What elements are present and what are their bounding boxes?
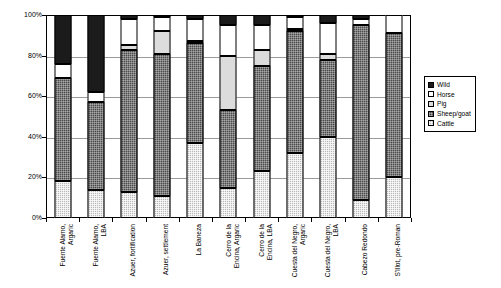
bar-segment-horse[interactable] xyxy=(286,17,303,29)
bar-segment-wild[interactable] xyxy=(253,15,270,25)
x-axis-category-label-line: Azuer, fortification xyxy=(129,224,137,276)
x-axis-category-label-line: Cabezo Redondo xyxy=(361,224,369,275)
bar-segment-pig[interactable] xyxy=(220,56,237,111)
x-axis-category-label-line: La Baneza xyxy=(195,224,203,256)
stacked-bar[interactable] xyxy=(353,15,370,218)
y-axis-tick-label: 20% xyxy=(6,173,42,180)
legend-label: Sheep/goat xyxy=(437,110,471,117)
bar-segment-pig[interactable] xyxy=(120,45,137,49)
bar-segment-horse[interactable] xyxy=(320,23,337,53)
x-axis-label-slot: S'Illot, pre-Roman xyxy=(378,224,411,288)
legend-item-pig[interactable]: Pig xyxy=(428,99,471,109)
bar-segment-wild[interactable] xyxy=(320,15,337,23)
bar-segment-sheep-goat[interactable] xyxy=(87,102,104,189)
x-axis-tick-mark xyxy=(345,218,346,222)
bar-segment-wild[interactable] xyxy=(353,15,370,19)
bar-segment-cattle[interactable] xyxy=(187,143,204,218)
bar-segment-sheep-goat[interactable] xyxy=(386,33,403,177)
legend-label: Cattle xyxy=(437,120,454,127)
bar-segment-cattle[interactable] xyxy=(87,190,104,218)
stacked-bar[interactable] xyxy=(54,15,71,218)
stacked-bar[interactable] xyxy=(120,15,137,218)
bar-segment-cattle[interactable] xyxy=(120,192,137,218)
bar-segment-horse[interactable] xyxy=(353,19,370,25)
x-axis-tick-mark xyxy=(179,218,180,222)
bar-segment-horse[interactable] xyxy=(154,17,171,31)
bar-segment-sheep-goat[interactable] xyxy=(187,43,204,142)
bar-segment-pig[interactable] xyxy=(187,41,204,43)
legend-item-horse[interactable]: Horse xyxy=(428,90,471,100)
stacked-bar[interactable] xyxy=(187,15,204,218)
bar-segment-sheep-goat[interactable] xyxy=(154,54,171,196)
stacked-bar[interactable] xyxy=(286,15,303,218)
bar-segment-sheep-goat[interactable] xyxy=(353,25,370,200)
bar-segment-wild[interactable] xyxy=(54,15,71,64)
x-axis-tick-mark xyxy=(146,218,147,222)
bar-segment-cattle[interactable] xyxy=(353,200,370,218)
x-axis-category-label: Cabezo Redondo xyxy=(361,224,369,275)
bar-slot xyxy=(378,15,411,218)
bar-segment-sheep-goat[interactable] xyxy=(120,50,137,192)
bar-segment-cattle[interactable] xyxy=(154,196,171,218)
bar-segment-wild[interactable] xyxy=(154,15,171,17)
x-axis-tick-mark xyxy=(79,218,80,222)
bar-segment-wild[interactable] xyxy=(286,15,303,17)
stacked-bar[interactable] xyxy=(320,15,337,218)
bar-segment-cattle[interactable] xyxy=(286,153,303,218)
bar-segment-cattle[interactable] xyxy=(54,181,71,218)
bar-segment-wild[interactable] xyxy=(87,15,104,92)
x-axis-tick-mark xyxy=(278,218,279,222)
bar-segment-wild[interactable] xyxy=(220,15,237,25)
bar-segment-cattle[interactable] xyxy=(220,188,237,218)
x-axis-category-label-line: Encina, Argaric xyxy=(232,224,240,268)
bar-segment-horse[interactable] xyxy=(253,25,270,49)
x-axis-label-slot: Cerro de laEncina, Argaric xyxy=(212,224,245,288)
x-axis-category-label-line: Cuesta del Negro, xyxy=(324,224,332,277)
legend-swatch-pig xyxy=(428,101,434,107)
x-axis-tick-mark xyxy=(378,218,379,222)
bar-segment-pig[interactable] xyxy=(320,54,337,60)
bar-segment-sheep-goat[interactable] xyxy=(320,60,337,137)
bar-segment-wild[interactable] xyxy=(187,15,204,19)
stacked-bar[interactable] xyxy=(87,15,104,218)
x-axis-category-label: Fuente Alamo,Argaric xyxy=(59,224,74,267)
stacked-bar[interactable] xyxy=(253,15,270,218)
y-axis-tick-label: 60% xyxy=(6,92,42,99)
x-axis-category-label-line: LBA xyxy=(332,224,340,277)
x-axis-label-slot: Cerro de laEncina, LBA xyxy=(245,224,278,288)
bar-segment-horse[interactable] xyxy=(187,19,204,41)
bar-segment-pig[interactable] xyxy=(154,31,171,53)
bar-segment-pig[interactable] xyxy=(286,29,303,31)
legend-item-cattle[interactable]: Cattle xyxy=(428,118,471,128)
bar-slot xyxy=(212,15,245,218)
bar-segment-horse[interactable] xyxy=(87,92,104,102)
legend: WildHorsePigSheep/goatCattle xyxy=(424,76,476,132)
legend-label: Wild xyxy=(437,81,450,88)
stacked-bar[interactable] xyxy=(220,15,237,218)
bar-segment-horse[interactable] xyxy=(54,64,71,78)
bar-segment-sheep-goat[interactable] xyxy=(220,110,237,187)
bar-slot xyxy=(311,15,344,218)
x-axis-category-label-line: Fuente Alamo, xyxy=(59,224,67,267)
y-axis-tick-label: 0% xyxy=(6,214,42,221)
bar-segment-horse[interactable] xyxy=(220,25,237,55)
bar-segment-cattle[interactable] xyxy=(386,177,403,218)
x-axis-label-slot: Fuente Alamo,LBA xyxy=(79,224,112,288)
bar-segment-sheep-goat[interactable] xyxy=(286,31,303,153)
bar-segment-sheep-goat[interactable] xyxy=(54,78,71,182)
legend-item-sheep-goat[interactable]: Sheep/goat xyxy=(428,109,471,119)
bar-segment-cattle[interactable] xyxy=(320,137,337,218)
bar-segment-cattle[interactable] xyxy=(253,171,270,218)
bar-segment-pig[interactable] xyxy=(253,50,270,66)
bar-segment-wild[interactable] xyxy=(120,15,137,19)
stacked-bar[interactable] xyxy=(154,15,171,218)
bar-slot xyxy=(245,15,278,218)
bar-segment-sheep-goat[interactable] xyxy=(253,66,270,172)
bar-slot xyxy=(46,15,79,218)
bar-segment-horse[interactable] xyxy=(120,19,137,45)
x-axis-labels: Fuente Alamo,ArgaricFuente Alamo,LBAAzue… xyxy=(46,224,411,288)
bar-segment-horse[interactable] xyxy=(386,15,403,33)
x-axis-category-label-line: S'Illot, pre-Roman xyxy=(394,224,402,277)
stacked-bar[interactable] xyxy=(386,15,403,218)
legend-item-wild[interactable]: Wild xyxy=(428,80,471,90)
